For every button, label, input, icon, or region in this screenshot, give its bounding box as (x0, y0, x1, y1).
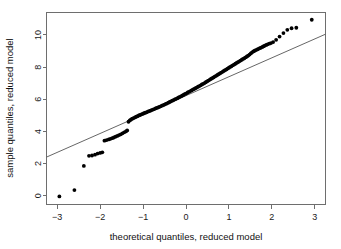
data-point (274, 38, 278, 42)
x-tick-label: 2 (269, 212, 274, 222)
y-tick-label: 0 (34, 193, 44, 198)
data-point (278, 35, 282, 39)
x-axis-title: theoretical quantiles, reduced model (110, 231, 263, 242)
y-tick-label: 4 (34, 129, 44, 134)
y-tick-label: 8 (34, 65, 44, 70)
data-point (73, 188, 77, 192)
y-tick-label: 10 (34, 30, 44, 40)
data-point (271, 40, 275, 44)
x-tick-label: 1 (226, 212, 231, 222)
x-tick-label: 0 (183, 212, 188, 222)
data-point (125, 129, 129, 133)
x-tick-label: −1 (138, 212, 148, 222)
x-tick-label: −2 (95, 212, 105, 222)
qq-plot-canvas: −3−2−10123 0246810 theoretical quantiles… (0, 0, 341, 249)
y-tick-label: 2 (34, 161, 44, 166)
data-point (290, 26, 294, 30)
qq-plot-figure: −3−2−10123 0246810 theoretical quantiles… (0, 0, 341, 249)
data-point (100, 150, 104, 154)
data-point (282, 31, 286, 35)
data-point (294, 26, 298, 30)
data-point (82, 164, 86, 168)
x-tick-label: 3 (312, 212, 317, 222)
y-axis-title: sample quantiles, reduced model (4, 38, 15, 177)
data-point (310, 18, 314, 22)
data-point (57, 195, 61, 199)
x-tick-label: −3 (52, 212, 62, 222)
y-tick-label: 6 (34, 97, 44, 102)
data-point (285, 28, 289, 32)
